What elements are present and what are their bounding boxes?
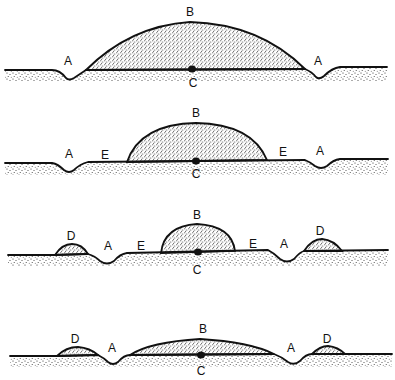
label-b: B [193,208,201,222]
center-point-marker [194,249,202,256]
label-e: E [279,145,287,159]
label-e: E [249,237,257,251]
center-point-marker [197,352,205,359]
label-c: C [192,167,201,181]
label-a: A [104,239,112,253]
label-d: D [71,332,80,346]
panel-stage-4: DABADC [10,322,392,378]
label-a: A [65,147,73,161]
label-a: A [316,144,324,158]
mound [86,22,305,70]
label-b: B [192,106,200,120]
label-a: A [280,237,288,251]
mound [304,239,342,251]
label-a: A [108,341,116,355]
label-e: E [137,239,145,253]
label-a: A [287,341,295,355]
mound [127,123,267,162]
center-point-marker [188,66,196,73]
label-a: A [64,54,72,68]
panel-stage-1: ABAC [5,5,387,90]
label-c: C [189,76,198,90]
label-d: D [323,332,332,346]
mound [312,346,345,354]
label-c: C [193,263,202,277]
label-b: B [199,322,207,336]
label-a: A [314,54,322,68]
label-e: E [101,148,109,162]
label-c: C [197,364,206,378]
label-d: D [67,229,76,243]
label-d: D [316,224,325,238]
center-point-marker [192,158,200,165]
panel-stage-3: DAEBEADC [8,208,388,277]
cross-section-diagram: ABACAEBEACDAEBEADCDABADC [0,0,395,380]
panel-stage-2: AEBEAC [5,106,388,181]
label-b: B [186,5,194,19]
